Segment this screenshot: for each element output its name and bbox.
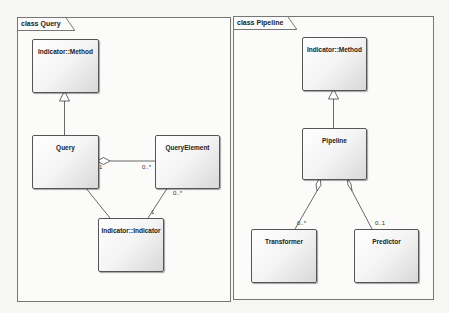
multiplicity-label: 1 [151,209,154,215]
class-predictor[interactable]: Predictor [354,229,419,283]
class-indicator-method[interactable]: Indicator::Method [32,39,99,93]
class-name: Indicator::Method [33,48,98,55]
class-pipeline[interactable]: Pipeline [302,128,367,180]
class-name: Query [33,144,98,151]
multiplicity-label: 1 [99,164,102,170]
multiplicity-label: 0..* [142,164,151,170]
class-name: Transformer [252,238,316,245]
class-query[interactable]: Query [32,135,99,189]
class-indicator-method[interactable]: Indicator::Method [302,37,367,91]
multiplicity-label: 0..* [297,220,306,226]
class-name: Indicator::Method [303,46,366,53]
class-name: Pipeline [303,137,366,144]
class-name: QueryElement [156,144,219,151]
multiplicity-label: 0..1 [375,220,385,226]
class-indicator-indicator[interactable]: Indicator::Indicator [98,218,164,272]
class-name: Indicator::Indicator [99,227,163,234]
class-transformer[interactable]: Transformer [251,229,317,283]
class-name: Predictor [355,238,418,245]
multiplicity-label: 0..* [173,190,182,196]
class-queryelement[interactable]: QueryElement [155,135,220,189]
